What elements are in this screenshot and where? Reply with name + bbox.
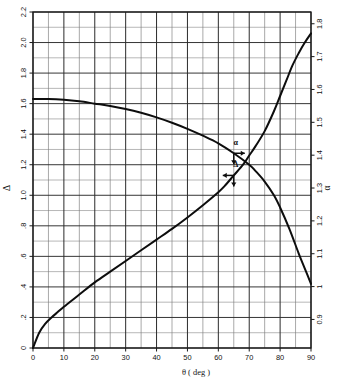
y-left-tick-label: 1.6 [19, 98, 28, 108]
x-tick-label: 20 [91, 353, 99, 362]
y-left-tick-label: 1.2 [19, 160, 28, 170]
x-tick-label: 80 [276, 353, 284, 362]
y-right-tick-label: 1.5 [315, 117, 324, 127]
annotation-label: α [234, 138, 239, 147]
y-right-tick-label: 1.1 [315, 249, 324, 259]
y-right-tick-label: 1.7 [315, 51, 324, 61]
x-tick-label: 30 [122, 353, 130, 362]
y-right-tick-label: 0.9 [315, 314, 324, 324]
x-tick-label: 60 [214, 353, 222, 362]
annotation-label: Δ [233, 160, 238, 169]
y-left-tick-label: 1.8 [19, 68, 28, 78]
y-left-tick-label: 2.0 [19, 37, 28, 47]
chart-figure: αΔ 01020304050607080900.2.4.6.81.01.21.4… [0, 0, 344, 385]
y-left-tick-label: 2.2 [19, 7, 28, 17]
y-left-tick-label: 0 [19, 346, 28, 350]
y-left-tick-label: 1.4 [19, 129, 28, 139]
x-axis-title: θ ( deg ) [182, 368, 210, 377]
y-right-tick-label: 1 [315, 285, 324, 289]
y-left-tick-label: .6 [19, 253, 28, 259]
left-axis-title: Δ [2, 185, 12, 191]
x-tick-label: 50 [183, 353, 191, 362]
right-axis-title: α [322, 185, 332, 190]
y-left-tick-label: 1.0 [19, 190, 28, 200]
x-tick-label: 10 [60, 353, 68, 362]
y-left-tick-label: .8 [19, 223, 28, 229]
y-right-tick-label: 1.8 [315, 19, 324, 29]
y-right-tick-label: 1.2 [315, 216, 324, 226]
x-tick-label: 90 [307, 353, 315, 362]
y-left-tick-label: .2 [19, 314, 28, 320]
chart-svg: αΔ 01020304050607080900.2.4.6.81.01.21.4… [0, 0, 344, 385]
x-tick-label: 40 [152, 353, 160, 362]
y-right-tick-label: 1.6 [315, 84, 324, 94]
x-tick-label: 70 [245, 353, 253, 362]
y-left-tick-label: .4 [19, 284, 28, 290]
x-tick-label: 0 [31, 353, 35, 362]
y-right-tick-label: 1.4 [315, 150, 324, 160]
